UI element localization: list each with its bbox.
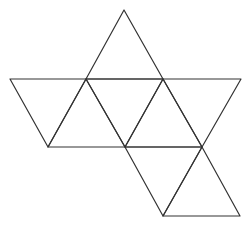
triangle-face-6 [163, 79, 241, 147]
triangle-face-8 [163, 147, 240, 216]
triangle-face-1 [86, 10, 163, 79]
triangle-face-2 [10, 79, 86, 147]
triangle-face-3 [48, 79, 125, 147]
octahedron-net-diagram [0, 0, 251, 225]
triangle-face-4 [86, 79, 163, 147]
triangle-face-7 [125, 147, 202, 216]
triangle-face-5 [125, 79, 202, 147]
